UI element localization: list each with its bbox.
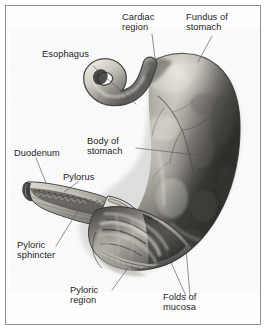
label-duodenum: Duodenum — [14, 148, 60, 158]
label-body-of-stomach: Body of stomach — [87, 136, 123, 157]
stomach-anatomy-figure: Cardiac region Fundus of stomach Esophag… — [0, 0, 268, 335]
label-pyloric-region: Pyloric region — [70, 285, 98, 306]
stomach-illustration — [0, 0, 268, 335]
leader-duodenum — [36, 158, 46, 183]
label-folds-of-mucosa: Folds of mucosa — [163, 292, 196, 313]
esophagus-shape — [91, 64, 151, 105]
label-fundus-of-stomach: Fundus of stomach — [186, 12, 228, 33]
leader-folds-2 — [186, 248, 190, 296]
label-pyloric-sphincter: Pyloric sphincter — [17, 240, 55, 261]
label-esophagus: Esophagus — [42, 49, 89, 59]
label-pylorus: Pylorus — [63, 172, 94, 182]
label-cardiac-region: Cardiac region — [122, 12, 154, 33]
